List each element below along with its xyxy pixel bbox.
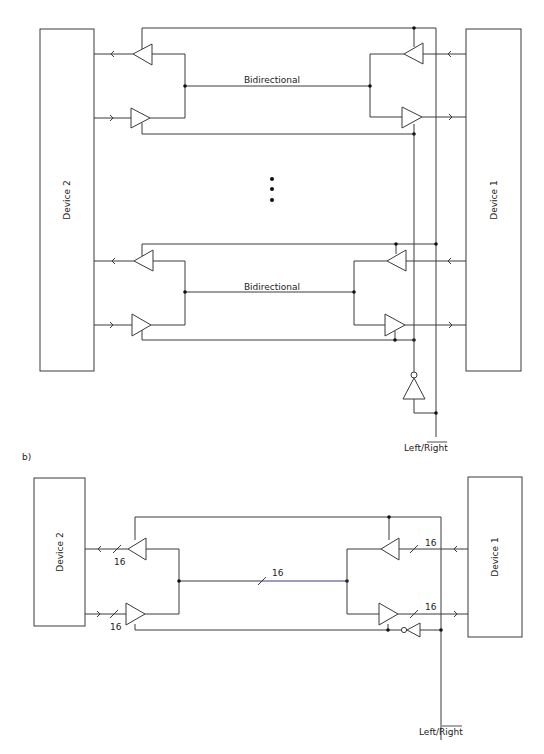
device-1-label-b: Device 1 [490,537,500,576]
device-1-label-a: Device 1 [489,180,499,219]
control-line-bottom [142,123,414,134]
inverter-bubble-icon [401,627,406,632]
control-label-a: Left/Right [404,443,448,453]
diagram-a: Device 2 Device 1 Bidirectional [40,26,521,453]
inverter-icon [407,623,420,637]
device-2-label-b: Device 2 [55,532,65,571]
buffer-left-pointing [381,538,399,560]
ellipsis-icon [270,177,274,202]
inverter-icon [403,378,425,399]
control-label-b: Left/Right [419,727,463,737]
direction-control-a: Left/Right [403,134,448,453]
bus-label-lower: Bidirectional [244,282,300,292]
width-label-bus: 16 [272,568,284,578]
bidirectional-bus-diagram: Device 2 Device 1 Bidirectional [0,0,544,754]
device-2-label-a: Device 2 [62,180,72,219]
width-label-right-lower: 16 [425,602,437,612]
channel-lower-a: Bidirectional [94,242,466,342]
width-label-right-upper: 16 [425,538,437,548]
channel-upper-a: Bidirectional [94,26,466,414]
buffer-left-pointing [128,538,146,560]
diagram-b: b) Device 2 Device 1 16 16 16 [22,452,522,740]
buffer-right-pointing [126,603,145,625]
buffer-right-pointing [379,603,398,625]
width-label-left-lower: 16 [110,622,122,632]
part-label-b: b) [22,452,31,462]
width-label-left-upper: 16 [114,557,126,567]
bus-label-upper: Bidirectional [244,75,300,85]
buffer-right-pointing [131,108,150,128]
buffer-right-pointing [402,107,422,128]
buffer-left-pointing [134,250,153,271]
